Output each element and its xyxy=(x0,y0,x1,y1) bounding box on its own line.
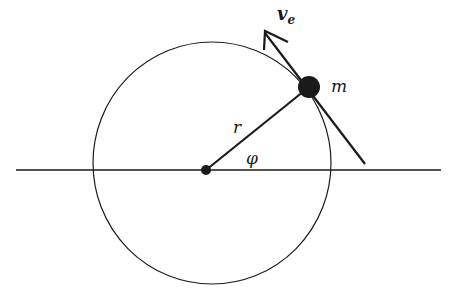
center-point xyxy=(201,165,211,175)
mass-label: m xyxy=(331,76,347,96)
radius-label: r xyxy=(233,117,242,137)
orbit-diagram: ve m r φ xyxy=(0,0,449,300)
orbit-circle xyxy=(93,42,331,284)
tangent-line xyxy=(265,33,365,164)
angle-label: φ xyxy=(246,148,258,168)
velocity-label: ve xyxy=(277,3,295,27)
mass-point xyxy=(298,76,320,98)
